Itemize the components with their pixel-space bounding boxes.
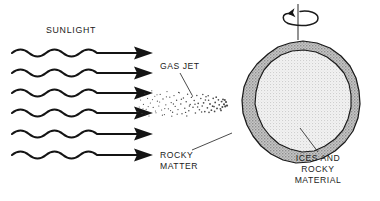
label-rocky-matter-line1: ROCKY	[160, 150, 193, 160]
rocky-matter-leader	[192, 133, 232, 150]
sunlight-ray-3	[12, 87, 153, 100]
gas-jet-leader	[180, 73, 192, 95]
sunlight-ray-6	[12, 149, 153, 162]
sunlight-rays-group	[12, 47, 153, 162]
diagram-canvas: SUNLIGHT GAS JET ROCKY MATTER ICES AND R…	[0, 0, 380, 201]
sunlight-ray-2	[12, 67, 153, 80]
label-gas-jet: GAS JET	[160, 61, 200, 71]
label-ices-line3: MATERIAL	[295, 175, 342, 185]
rotation-axis-group	[283, 4, 318, 40]
label-sunlight: SUNLIGHT	[46, 25, 96, 35]
sunlight-ray-5	[12, 128, 153, 141]
sunlight-ray-4	[12, 107, 153, 120]
comet-nucleus-group	[242, 41, 360, 163]
label-ices-line2: ROCKY	[301, 164, 334, 174]
comet-diagram: SUNLIGHT GAS JET ROCKY MATTER ICES AND R…	[0, 0, 380, 201]
label-rocky-matter-line2: MATTER	[160, 161, 198, 171]
sunlight-ray-1	[12, 47, 153, 60]
label-ices-line1: ICES AND	[296, 153, 341, 163]
rotation-arrowhead-icon	[288, 8, 296, 17]
